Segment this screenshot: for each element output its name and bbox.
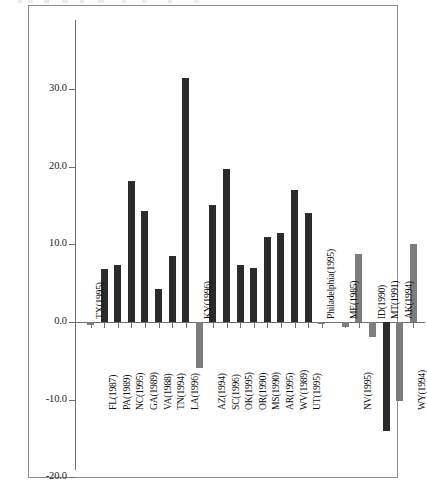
category-label: AK(1994) [404,281,414,319]
category-label: AR(1995) [285,373,295,410]
y-axis-tick [69,244,75,245]
bar [128,181,135,322]
bar [369,322,376,337]
bar [87,322,94,325]
category-label: VA(1988) [163,373,173,410]
category-label: ME(1985) [349,281,359,319]
y-axis-tick-label: 30.0 [0,83,67,94]
x-axis-tick [186,323,187,328]
x-axis-tick [308,323,309,328]
x-axis-tick [281,323,282,328]
bar [342,322,349,327]
bar [169,256,176,322]
y-axis-tick [69,89,75,90]
y-axis-tick-label: 0.0 [0,316,67,327]
y-axis-tick [69,477,75,478]
category-label: UT(1995) [312,373,322,410]
category-label: GA(1989) [149,372,159,410]
category-label: OK(1995) [244,372,254,410]
bar [250,268,257,322]
category-label: ID(1990) [377,285,387,319]
bar [291,190,298,322]
category-label: KY(1996) [203,281,213,319]
x-axis-tick [227,323,228,328]
bar [141,211,148,322]
x-axis-tick [295,323,296,328]
category-label: Philadelphia(1995) [326,249,336,319]
category-label: FL(1987) [108,375,118,410]
category-label: SC(1996) [231,374,241,410]
bar [182,78,189,322]
y-axis-line [75,20,76,470]
x-axis-tick [240,323,241,328]
bar [305,213,312,322]
bar [155,289,162,322]
category-label: LA(1996) [190,373,200,410]
category-label: TN(1994) [176,373,186,410]
category-label: TX(1995) [95,282,105,319]
x-axis-tick [159,323,160,328]
x-axis-tick [145,323,146,328]
y-axis-tick [69,167,75,168]
x-axis-tick [359,323,360,328]
x-axis-tick [413,323,414,328]
bar [264,237,271,322]
plot-frame: 30.020.010.00.0-10.0-20.0 TX(1995)FL(198… [28,5,398,478]
category-label: WY(1994) [417,370,427,410]
category-label: OR(1990) [258,373,268,410]
y-axis-tick-label: -20.0 [0,471,67,482]
category-label: NV(1995) [363,372,373,410]
category-label: MS(1990) [271,372,281,410]
clipped-title-sliver [18,0,268,3]
y-axis-tick-label: -10.0 [0,394,67,405]
bar [277,233,284,322]
bar [114,265,121,322]
bar [318,322,325,324]
bar [237,265,244,322]
y-axis-tick-label: 20.0 [0,161,67,172]
bar [383,322,390,431]
x-axis-tick [118,323,119,328]
x-axis-tick [322,323,323,328]
x-axis-tick [254,323,255,328]
category-label: AZ(1994) [217,373,227,410]
category-label: NC(1995) [135,373,145,410]
x-axis-tick [131,323,132,328]
x-axis-tick [172,323,173,328]
y-axis-tick [69,322,75,323]
bar [396,322,403,401]
y-axis-tick-label: 10.0 [0,238,67,249]
category-label: MT(1991) [390,281,400,319]
x-axis-tick [267,323,268,328]
bar [196,322,203,368]
x-axis-tick [104,323,105,328]
category-label: PA(1989) [122,375,132,410]
category-label: WV(1989) [299,370,309,410]
bar [223,169,230,322]
y-axis-tick [69,400,75,401]
x-axis-tick [213,323,214,328]
